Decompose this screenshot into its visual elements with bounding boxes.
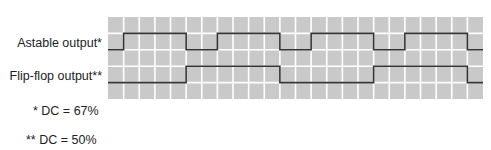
flipflop-duty-cycle-note: ** DC = 50% <box>26 133 97 147</box>
flipflop-output-label: Flip-flop output** <box>10 69 102 83</box>
astable-output-label: Astable output* <box>17 36 102 50</box>
astable-duty-cycle-note: * DC = 67% <box>33 104 99 118</box>
